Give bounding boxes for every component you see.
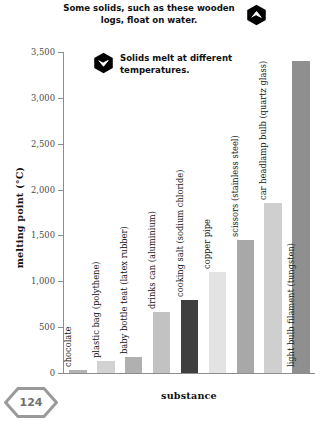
y-tick-label: 3,000	[31, 93, 55, 103]
bar-category-label: scissors (stainless steel)	[230, 135, 240, 237]
bar	[209, 272, 227, 373]
bar-group: plastic bag (polythene)	[97, 52, 115, 373]
bar-category-label: light bulb filament (tungsten)	[286, 243, 296, 367]
x-axis-title: substance	[63, 390, 315, 401]
bar-category-label: copper pipe	[202, 219, 212, 269]
bar-group: baby bottle teat (latex rubber)	[125, 52, 143, 373]
y-tick-mark	[58, 235, 63, 236]
bar-category-label: baby bottle teat (latex rubber)	[119, 226, 129, 354]
bar-group: drinks can (aluminium)	[153, 52, 171, 373]
y-axis-title: melting point (°C)	[14, 158, 25, 278]
bar-group: car headlamp bulb (quartz glass)	[264, 52, 282, 373]
bar	[264, 203, 282, 373]
y-tick-mark	[58, 190, 63, 191]
y-tick-label: 2,500	[31, 139, 55, 149]
hexagon-chevron-down-icon	[93, 52, 114, 74]
bar-group: copper pipe	[209, 52, 227, 373]
bar-group: chocolate	[69, 52, 87, 373]
callout-melt-temperatures: Solids melt at different temperatures.	[93, 52, 283, 76]
hexagon-chevron-up-icon	[246, 4, 267, 26]
bar-group: light bulb filament (tungsten)	[292, 52, 310, 373]
bar-category-label: car headlamp bulb (quartz glass)	[258, 61, 268, 200]
bar-category-label: plastic bag (polythene)	[91, 261, 101, 358]
y-tick-mark	[58, 52, 63, 53]
bar-group: cooking salt (sodium chloride)	[181, 52, 199, 373]
callout-melt-text: Solids melt at different temperatures.	[114, 52, 283, 76]
bar-group: scissors (stainless steel)	[237, 52, 255, 373]
bar	[237, 240, 255, 373]
x-axis-line	[63, 373, 315, 374]
page-number-badge: 124	[4, 387, 58, 418]
y-tick-label: 0	[50, 368, 55, 378]
page-number-text: 124	[4, 387, 58, 418]
bar-category-label: cooking salt (sodium chloride)	[175, 169, 185, 296]
callout-float-text: Some solids, such as these wooden logs, …	[60, 3, 238, 26]
y-tick-label: 2,000	[31, 185, 55, 195]
y-tick-label: 1,000	[31, 276, 55, 286]
bar-category-label: chocolate	[63, 327, 73, 367]
bar-category-label: drinks can (aluminium)	[147, 212, 157, 310]
bar	[125, 357, 143, 374]
y-tick-mark	[58, 144, 63, 145]
bar-series: chocolateplastic bag (polythene)baby bot…	[64, 52, 315, 373]
y-tick-label: 3,500	[31, 47, 55, 57]
bar	[181, 300, 199, 373]
y-tick-mark	[58, 98, 63, 99]
y-tick-label: 500	[39, 322, 55, 332]
y-tick-mark	[58, 373, 63, 374]
bar	[69, 370, 87, 373]
callout-float-on-water: Some solids, such as these wooden logs, …	[60, 3, 290, 26]
bar	[97, 361, 115, 373]
y-tick-mark	[58, 281, 63, 282]
bar	[153, 312, 171, 373]
y-tick-label: 1,500	[31, 230, 55, 240]
